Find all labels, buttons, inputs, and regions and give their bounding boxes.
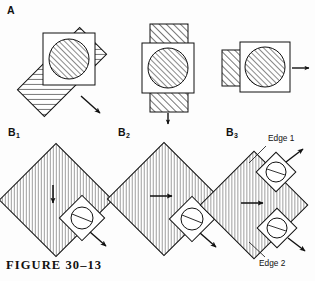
exit-arrow-down-right [288,238,305,251]
panel-label-b3-sub: 3 [234,132,238,139]
panel-b3 [200,146,307,259]
panel-label-b2-sub: 2 [126,132,130,139]
panel-a-sub3 [222,42,309,92]
hatched-diamond [0,143,113,256]
panel-label-a-text: A [7,4,15,16]
figure-container: A B1 B2 B3 Edge 1 Edge 2 FIGURE 30–13 [0,0,315,281]
panel-label-b2-text: B [118,126,126,138]
motion-arrow-down-right [81,96,100,113]
hatched-circle [245,47,285,87]
panel-label-b1-sub: 1 [16,132,20,139]
panel-label-b2: B2 [118,127,130,138]
edge-1-label: Edge 1 [268,133,294,143]
panel-b1 [0,143,113,256]
hatched-circle [49,39,89,79]
panel-label-a: A [7,5,15,16]
hatched-circle [148,48,188,88]
exit-arrow-down-right [200,233,216,247]
panel-a-sub2 [142,24,194,124]
panel-label-b1: B1 [8,127,20,138]
panel-label-b1-text: B [8,126,16,138]
panel-a-sub1 [17,27,106,116]
edge-2-label: Edge 2 [259,258,285,268]
exit-arrow-up-right [286,149,303,162]
panel-label-b3-text: B [226,126,234,138]
panel-b2 [107,142,220,255]
figure-caption: FIGURE 30–13 [6,258,102,273]
hatched-diamond [107,142,220,255]
panel-label-b3: B3 [226,127,238,138]
exit-arrow-down-right [90,232,106,246]
